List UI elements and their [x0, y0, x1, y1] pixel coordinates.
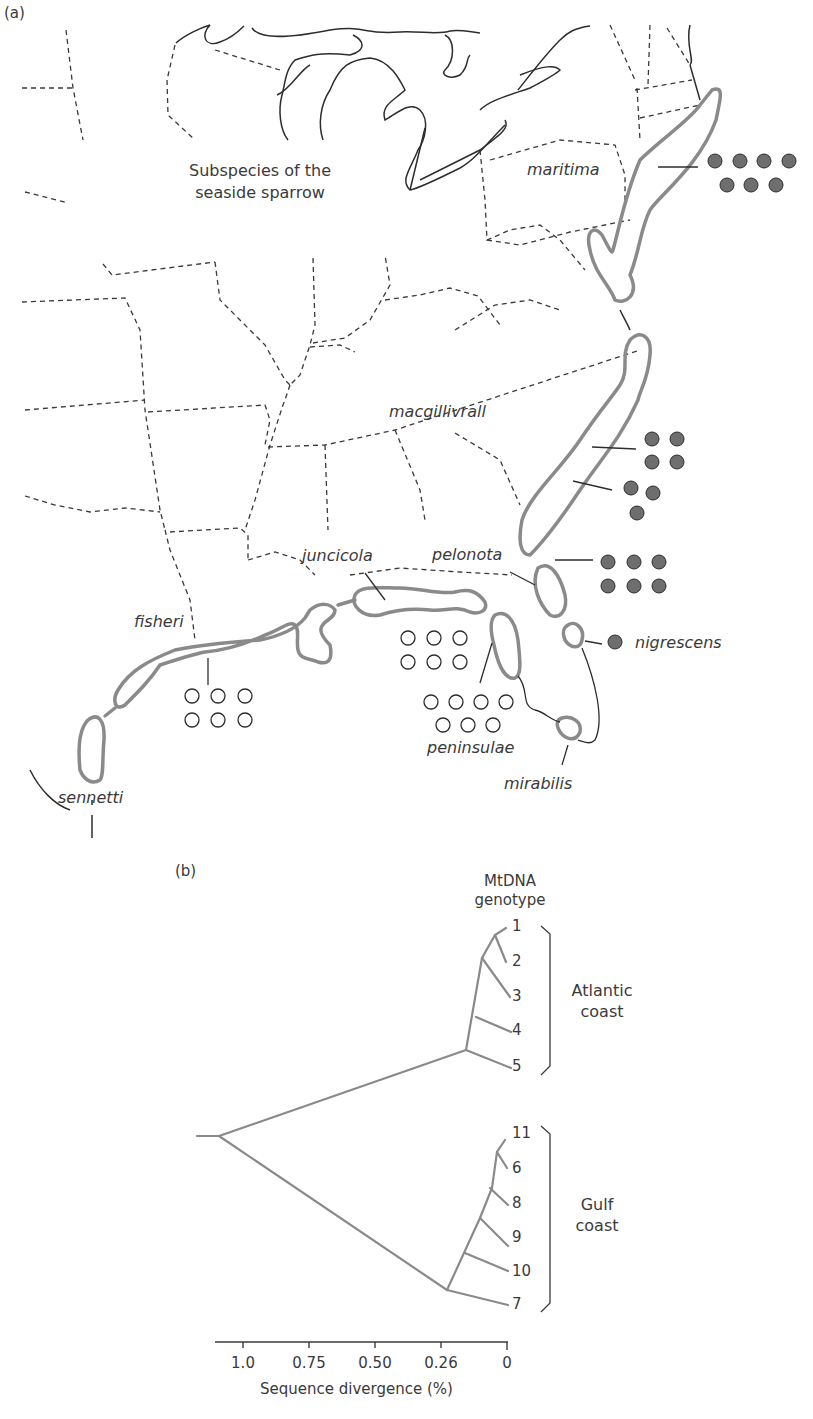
- panel-a-label: (a): [4, 4, 25, 22]
- tree-branches: [197, 928, 511, 1305]
- genotype-tip: 9: [512, 1228, 522, 1246]
- clade-brackets: [541, 926, 550, 1312]
- axis-tick-label: 0.75: [292, 1354, 325, 1372]
- label-juncicola: juncicola: [302, 546, 373, 565]
- label-mirabilis: mirabilis: [504, 774, 572, 793]
- axis-tick-label: 0.50: [358, 1354, 391, 1372]
- genotype-tip: 7: [512, 1295, 522, 1313]
- genotype-header-line1: MtDNA: [465, 872, 555, 891]
- atlantic-coast-line1: Atlantic: [562, 980, 642, 1001]
- map-title-line1: Subspecies of the: [170, 160, 350, 182]
- genotype-tip: 4: [512, 1021, 522, 1039]
- phylogenetic-tree: [0, 0, 813, 1419]
- genotype-tip: 3: [512, 987, 522, 1005]
- genotype-header-line2: genotype: [465, 891, 555, 910]
- gulf-coast-label: Gulf coast: [562, 1194, 632, 1236]
- axis-label: Sequence divergence (%): [260, 1380, 453, 1398]
- map-title-line2: seaside sparrow: [170, 182, 350, 204]
- label-macgillivraii: macgillivrall: [389, 402, 486, 421]
- genotype-header: MtDNA genotype: [465, 872, 555, 910]
- atlantic-bracket: [541, 926, 550, 1075]
- axis-tick-label: 1.0: [231, 1354, 255, 1372]
- axis-tick-label: 0.26: [424, 1354, 457, 1372]
- genotype-tip: 10: [512, 1262, 531, 1280]
- gulf-bracket: [541, 1126, 550, 1312]
- genotype-tip: 5: [512, 1057, 522, 1075]
- genotype-tip: 1: [512, 917, 522, 935]
- label-nigrescens: nigrescens: [635, 633, 722, 652]
- gulf-coast-line2: coast: [562, 1215, 632, 1236]
- genotype-tip: 11: [512, 1124, 531, 1142]
- map-title: Subspecies of the seaside sparrow: [170, 160, 350, 204]
- genotype-tip: 2: [512, 952, 522, 970]
- label-peninsulae: peninsulae: [427, 738, 514, 757]
- gulf-coast-line1: Gulf: [562, 1194, 632, 1215]
- genotype-tip: 6: [512, 1159, 522, 1177]
- panel-b-label: (b): [175, 862, 196, 880]
- label-maritima: maritima: [527, 160, 600, 179]
- atlantic-coast-label: Atlantic coast: [562, 980, 642, 1022]
- axis-tick-label: 0: [502, 1354, 512, 1372]
- label-pelonota: pelonota: [432, 545, 502, 564]
- label-fisheri: fisheri: [134, 612, 184, 631]
- atlantic-coast-line2: coast: [562, 1001, 642, 1022]
- genotype-tip: 8: [512, 1194, 522, 1212]
- label-sennetti: sennetti: [58, 788, 123, 807]
- divergence-axis: [215, 1342, 508, 1350]
